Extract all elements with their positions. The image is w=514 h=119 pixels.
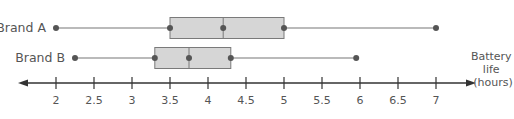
iqr-box: [155, 48, 231, 69]
arrow-left-icon: [18, 80, 28, 87]
max-point: [353, 55, 359, 61]
number-line-axis: 22.533.544.555.566.57: [18, 77, 476, 107]
box-plot-rows: Brand ABrand B: [0, 18, 439, 69]
box-plot-brand-a: Brand A: [0, 18, 439, 39]
tick-label: 2.5: [85, 94, 103, 107]
series-label: Brand B: [15, 50, 65, 65]
box-plot-brand-b: Brand B: [15, 48, 359, 69]
axis-label-line-1: Battery: [471, 50, 512, 63]
tick-label: 7: [433, 94, 440, 107]
axis-label: Battery life (hours): [471, 50, 514, 89]
max-point: [433, 25, 439, 31]
axis-label-line-2: life: [483, 63, 500, 76]
median-point: [186, 55, 192, 61]
series-label: Brand A: [0, 20, 46, 35]
tick-label: 5.5: [313, 94, 331, 107]
tick-label: 3.5: [161, 94, 179, 107]
median-point: [220, 25, 226, 31]
tick-label: 5: [281, 94, 288, 107]
q3-point: [228, 55, 234, 61]
tick-label: 6.5: [389, 94, 407, 107]
tick-label: 6: [357, 94, 364, 107]
q3-point: [281, 25, 287, 31]
axis-label-line-3: (hours): [473, 76, 513, 89]
tick-label: 4.5: [237, 94, 255, 107]
iqr-box: [170, 18, 284, 39]
min-point: [53, 25, 59, 31]
box-plot-chart: Brand ABrand B 22.533.544.555.566.57 Bat…: [0, 0, 514, 119]
tick-label: 3: [129, 94, 136, 107]
tick-label: 4: [205, 94, 212, 107]
min-point: [72, 55, 78, 61]
tick-label: 2: [53, 94, 60, 107]
q1-point: [167, 25, 173, 31]
q1-point: [152, 55, 158, 61]
